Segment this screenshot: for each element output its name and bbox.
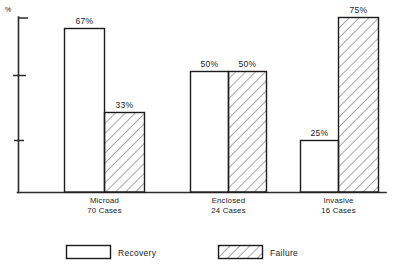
category-label-microad: Microad [90,196,119,205]
bar-group-enclosed: 50% 50% Enclosed 24 Cases [191,59,267,215]
value-label-failure-enclosed: 50% [239,59,257,69]
legend-label-recovery: Recovery [118,248,157,258]
legend-swatch-recovery [67,246,111,259]
value-label-recovery-microad: 67% [76,16,94,26]
bar-recovery-invasive [301,141,339,193]
bar-failure-microad [105,113,145,193]
legend-item-recovery: Recovery [67,246,157,259]
value-label-failure-microad: 33% [116,100,134,110]
y-axis-unit-label: % [5,6,11,13]
bar-recovery-enclosed [191,72,229,193]
legend-label-failure: Failure [270,248,298,258]
bar-group-invasive: 25% 75% Invasive 16 Cases [301,5,379,215]
chart-canvas: % 67% 33% Microad 70 Cases 50% 50% Enclo… [0,0,401,273]
y-axis [13,17,28,193]
bar-group-microad: 67% 33% Microad 70 Cases [65,16,145,215]
category-cases-microad: 70 Cases [87,206,122,215]
value-label-recovery-invasive: 25% [311,128,329,138]
legend: Recovery Failure [67,246,299,259]
category-label-enclosed: Enclosed [212,196,246,205]
value-label-failure-invasive: 75% [350,5,368,15]
bar-failure-invasive [339,18,379,193]
legend-item-failure: Failure [219,246,299,259]
value-label-recovery-enclosed: 50% [201,59,219,69]
category-cases-enclosed: 24 Cases [211,206,246,215]
bar-failure-enclosed [229,72,267,193]
category-cases-invasive: 16 Cases [321,206,356,215]
bar-chart: % 67% 33% Microad 70 Cases 50% 50% Enclo… [0,0,401,273]
bar-recovery-microad [65,29,105,193]
category-label-invasive: Invasive [323,196,353,205]
legend-swatch-failure [219,246,263,259]
